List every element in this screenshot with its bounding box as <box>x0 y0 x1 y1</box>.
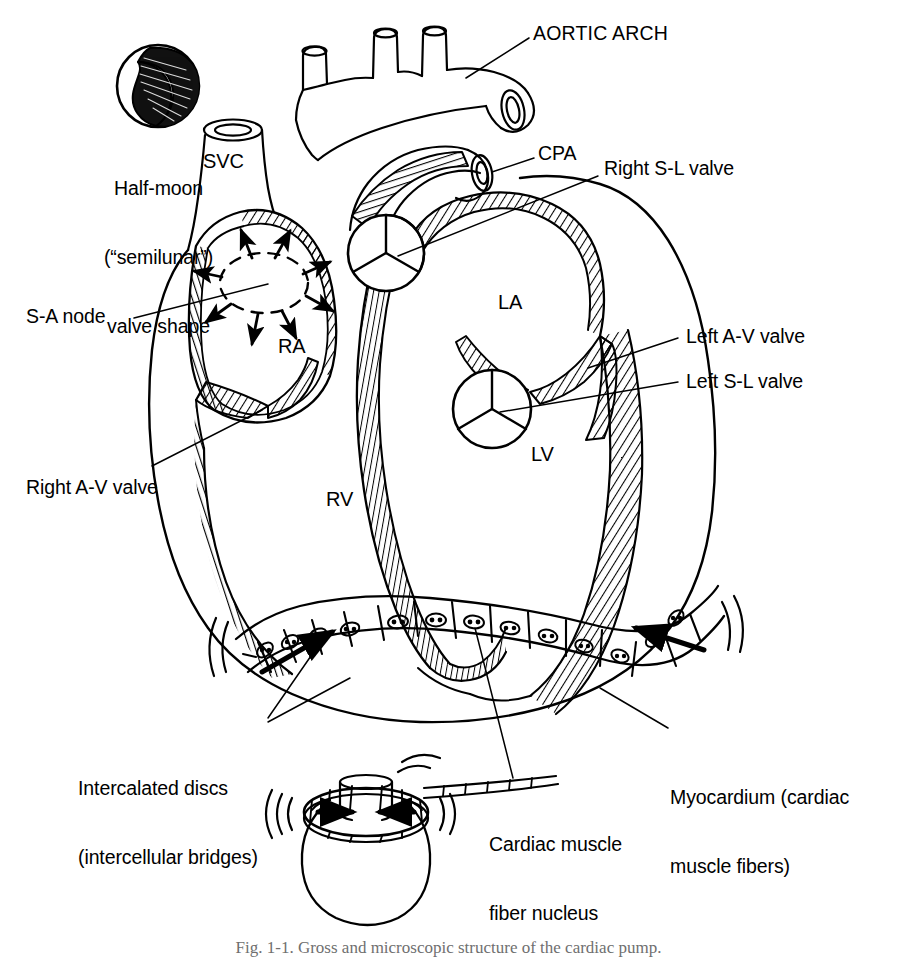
aortic-arch-shape <box>296 27 534 160</box>
myocardium-label: Myocardium (cardiac muscle fibers) <box>670 740 849 924</box>
left-sl-valve-label: Left S-L valve <box>686 370 803 393</box>
sa-node-label: S-A node <box>26 305 105 328</box>
leader-right-av-valve <box>152 410 262 466</box>
left-av-valve-label: Left A-V valve <box>686 325 805 348</box>
myocardium-label-line1: Myocardium (cardiac <box>670 786 849 809</box>
leader-myocardium <box>600 688 668 728</box>
figure-caption: Fig. 1-1. Gross and microscopic structur… <box>0 938 897 958</box>
cardiac-muscle-nucleus-label-line2: fiber nucleus <box>489 902 622 925</box>
ra-label: RA <box>278 335 306 359</box>
right-av-valve-label: Right A-V valve <box>26 476 158 499</box>
aortic-arch-label: AORTIC ARCH <box>533 22 668 45</box>
tricuspid-semilunar-valve-icon <box>348 215 424 291</box>
half-moon-valve-label-line2: (“semilunar”) <box>56 246 261 269</box>
cardiac-muscle-nucleus-label-line1: Cardiac muscle <box>489 833 622 856</box>
leader-cpa <box>492 158 534 172</box>
intercalated-discs-label-line2: (intercellular bridges) <box>78 846 258 869</box>
half-moon-valve-label-line1: Half-moon <box>56 177 261 200</box>
intercalated-discs-label-line1: Intercalated discs <box>78 777 258 800</box>
rv-label: RV <box>326 488 353 512</box>
half-moon-valve-icon <box>117 45 200 127</box>
lv-label: LV <box>531 443 554 467</box>
myocardium-label-line2: muscle fibers) <box>670 855 849 878</box>
svc-label: SVC <box>203 150 244 174</box>
intercalated-discs-label: Intercalated discs (intercellular bridge… <box>78 731 258 915</box>
cardiac-muscle-nucleus-label: Cardiac muscle fiber nucleus <box>489 787 622 961</box>
right-sl-valve-label: Right S-L valve <box>604 157 734 180</box>
cpa-label: CPA <box>538 142 576 165</box>
la-label: LA <box>498 291 522 315</box>
